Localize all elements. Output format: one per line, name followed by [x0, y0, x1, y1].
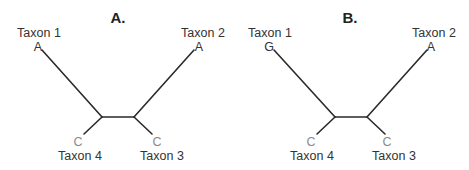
taxon1-state: A: [34, 40, 43, 54]
branch-taxon4: [317, 117, 335, 134]
phylogeny-figure: A. Taxon 1 A Taxon 2 A C Taxon 4 C Taxon…: [0, 0, 469, 170]
taxon2-label: Taxon 2: [181, 26, 225, 40]
taxon3-state: C: [152, 135, 161, 149]
panel-title: A.: [111, 9, 126, 26]
branch-taxon3: [367, 117, 385, 134]
branch-taxon4: [84, 117, 102, 134]
taxon3-label: Taxon 3: [140, 149, 184, 163]
taxon3-state: C: [382, 135, 391, 149]
panel-title: B.: [343, 9, 358, 26]
taxon2-state: A: [195, 40, 204, 54]
taxon1-label: Taxon 1: [248, 26, 292, 40]
panel-a: A. Taxon 1 A Taxon 2 A C Taxon 4 C Taxon…: [17, 9, 225, 163]
branch-taxon1: [274, 50, 335, 117]
taxon1-label: Taxon 1: [17, 26, 61, 40]
taxon2-state: A: [427, 40, 436, 54]
branch-taxon2: [134, 50, 194, 117]
branch-taxon2: [367, 50, 427, 117]
panel-b: B. Taxon 1 G Taxon 2 A C Taxon 4 C Taxon…: [248, 9, 456, 163]
branch-taxon1: [42, 50, 102, 117]
taxon4-label: Taxon 4: [290, 149, 334, 163]
taxon2-label: Taxon 2: [412, 26, 456, 40]
branch-taxon3: [134, 117, 152, 134]
taxon1-state: G: [264, 40, 274, 54]
taxon4-state: C: [73, 135, 82, 149]
taxon4-state: C: [306, 135, 315, 149]
taxon3-label: Taxon 3: [372, 149, 416, 163]
taxon4-label: Taxon 4: [58, 149, 102, 163]
